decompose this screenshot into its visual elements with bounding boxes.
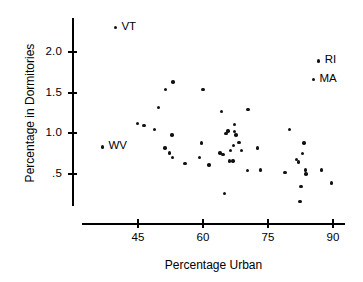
x-tick-mark bbox=[267, 219, 269, 228]
y-tick-mark bbox=[68, 92, 77, 94]
scatter-plot-figure: 2.01.51.0.5 45607590 VTWVRIMA Percentage… bbox=[0, 0, 363, 282]
data-point bbox=[246, 169, 249, 172]
x-tick-mark bbox=[202, 219, 204, 228]
data-point bbox=[142, 124, 145, 127]
data-point bbox=[170, 133, 173, 136]
x-tick-mark bbox=[137, 219, 139, 228]
x-tick-label: 60 bbox=[188, 231, 218, 243]
data-point bbox=[246, 108, 249, 111]
data-point bbox=[256, 146, 259, 149]
data-point-label-wv: WV bbox=[108, 139, 127, 151]
data-point bbox=[171, 156, 174, 159]
x-tick-label: 75 bbox=[253, 231, 283, 243]
data-point bbox=[223, 192, 226, 195]
x-axis-title: Percentage Urban bbox=[82, 258, 345, 272]
data-point bbox=[163, 146, 166, 149]
data-point bbox=[153, 128, 156, 131]
data-point bbox=[297, 160, 300, 163]
data-point bbox=[183, 162, 186, 165]
data-point bbox=[232, 144, 235, 147]
plot-area: 2.01.51.0.5 45607590 VTWVRIMA Percentage… bbox=[0, 0, 363, 282]
data-point bbox=[237, 141, 240, 144]
data-point bbox=[304, 168, 307, 171]
x-tick-mark bbox=[332, 219, 334, 228]
x-axis-line bbox=[82, 223, 345, 225]
data-point bbox=[301, 152, 304, 155]
data-point bbox=[201, 88, 204, 91]
data-point bbox=[221, 153, 224, 156]
data-point bbox=[231, 159, 234, 162]
data-point bbox=[330, 181, 333, 184]
data-point-label-ma: MA bbox=[320, 72, 337, 84]
data-point bbox=[220, 110, 223, 113]
data-point bbox=[198, 156, 201, 159]
data-point bbox=[288, 128, 291, 131]
data-point bbox=[171, 80, 174, 83]
data-point bbox=[226, 129, 229, 132]
y-axis-title: Percentage in Dormitories bbox=[23, 13, 37, 213]
data-point bbox=[320, 168, 323, 171]
data-point bbox=[259, 168, 262, 171]
data-point bbox=[283, 171, 286, 174]
data-point-wv bbox=[101, 145, 104, 148]
data-point bbox=[229, 149, 232, 152]
data-point-ri bbox=[317, 59, 320, 62]
data-point bbox=[200, 141, 203, 144]
data-point bbox=[302, 141, 305, 144]
data-point bbox=[298, 200, 301, 203]
y-tick-mark bbox=[68, 51, 77, 53]
data-point bbox=[168, 151, 171, 154]
data-point bbox=[157, 106, 160, 109]
data-point-label-vt: VT bbox=[121, 20, 136, 32]
data-point bbox=[304, 172, 307, 175]
data-point bbox=[164, 88, 167, 91]
data-point bbox=[207, 163, 210, 166]
x-tick-label: 90 bbox=[318, 231, 348, 243]
data-point bbox=[234, 133, 237, 136]
x-tick-label: 45 bbox=[123, 231, 153, 243]
y-axis-line bbox=[72, 18, 74, 206]
y-tick-mark bbox=[68, 132, 77, 134]
y-tick-mark bbox=[68, 173, 77, 175]
data-point bbox=[233, 123, 236, 126]
data-point bbox=[299, 185, 302, 188]
data-point bbox=[240, 149, 243, 152]
data-point-vt bbox=[114, 26, 117, 29]
data-point bbox=[136, 122, 139, 125]
data-point-label-ri: RI bbox=[325, 53, 337, 65]
data-point-ma bbox=[312, 78, 315, 81]
